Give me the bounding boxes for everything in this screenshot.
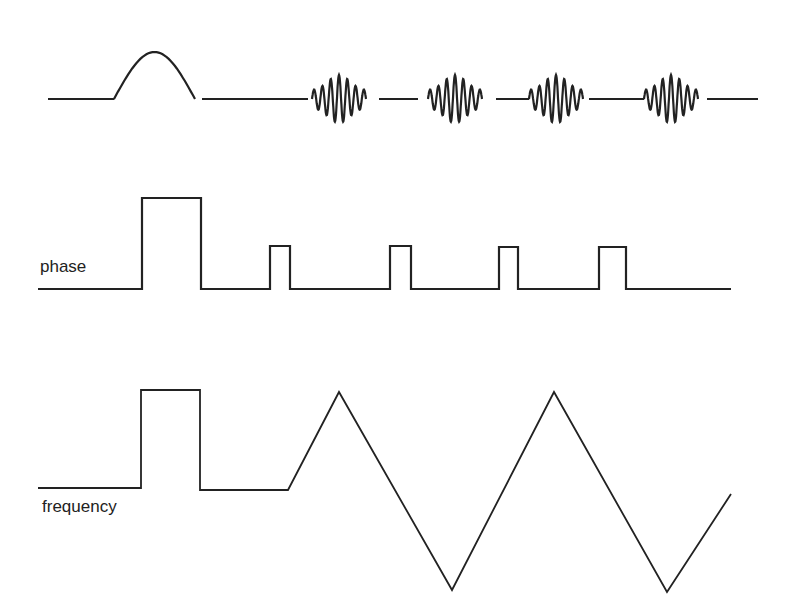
frequency-trace <box>38 390 731 592</box>
frequency-row <box>38 390 731 592</box>
phase-row <box>38 198 731 289</box>
rf-row <box>48 52 758 122</box>
pulse-sequence-diagram <box>0 0 789 595</box>
rf-trace <box>48 52 758 122</box>
phase-label: phase <box>40 257 86 277</box>
phase-trace <box>38 198 731 289</box>
frequency-label: frequency <box>42 497 117 517</box>
